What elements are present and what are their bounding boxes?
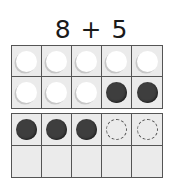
white-counter-icon (106, 51, 127, 72)
ten-frame-cell (42, 146, 72, 178)
dashed-counter-outline-icon (106, 119, 127, 140)
ten-frame-cell (42, 77, 72, 108)
white-counter-icon (46, 82, 67, 103)
second-ten-frame (11, 113, 163, 178)
ten-frame-cell (42, 46, 72, 77)
white-counter-icon (16, 82, 37, 103)
white-counter-icon (46, 51, 67, 72)
ten-frame-cell (102, 46, 132, 77)
ten-frame-cell (102, 146, 132, 178)
ten-frame-cell (102, 114, 132, 146)
ten-frame-cell (72, 146, 102, 178)
dark-counter-icon (106, 82, 127, 103)
ten-frame-cell (132, 146, 162, 178)
dark-counter-icon (46, 119, 67, 140)
ten-frame-cell (132, 46, 162, 77)
dashed-counter-outline-icon (137, 119, 158, 140)
ten-frame-cell (12, 46, 42, 77)
ten-frame-cell (42, 114, 72, 146)
ten-frame-cell (72, 114, 102, 146)
ten-frame-cell (72, 77, 102, 108)
white-counter-icon (76, 51, 97, 72)
ten-frame-cell (72, 46, 102, 77)
ten-frame-cell (12, 77, 42, 108)
dark-counter-icon (76, 119, 97, 140)
equation-title: 8 + 5 (0, 16, 183, 44)
white-counter-icon (16, 51, 37, 72)
ten-frame-cell (102, 77, 132, 108)
ten-frame-cell (12, 146, 42, 178)
ten-frame-cell (132, 114, 162, 146)
first-ten-frame (11, 45, 163, 109)
ten-frame-cell (12, 114, 42, 146)
ten-frame-cell (132, 77, 162, 108)
white-counter-icon (137, 51, 158, 72)
dark-counter-icon (16, 119, 37, 140)
white-counter-icon (76, 82, 97, 103)
dark-counter-icon (137, 82, 158, 103)
